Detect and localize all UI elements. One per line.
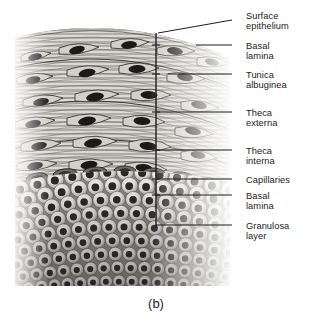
label-theca-externa: Thecaexterna [246, 108, 277, 128]
label-surface-epithelium-line-1: Surface [246, 11, 289, 21]
figure-caption: (b) [0, 296, 312, 311]
label-theca-interna-line-1: Theca [246, 146, 275, 156]
leader-lines [156, 20, 232, 225]
label-capillaries: Capillaries [246, 175, 290, 185]
label-granulosa-layer-line-1: Granulosa [246, 221, 289, 231]
label-tunica-albuginea-line-2: albuginea [246, 80, 287, 90]
label-basal-lamina-inner-line-1: Basal [246, 191, 274, 201]
label-theca-externa-line-1: Theca [246, 108, 277, 118]
label-granulosa-layer-line-2: layer [246, 231, 289, 241]
label-tunica-albuginea-line-1: Tunica [246, 70, 287, 80]
label-theca-interna: Thecainterna [246, 146, 275, 166]
depth-bracket [152, 33, 160, 228]
leader-surface-epithelium [158, 20, 232, 33]
label-granulosa-layer: Granulosalayer [246, 221, 289, 241]
label-basal-lamina-outer-line-1: Basal [246, 41, 274, 51]
label-capillaries-line-1: Capillaries [246, 175, 290, 185]
label-basal-lamina-outer: Basallamina [246, 41, 274, 61]
label-theca-externa-line-2: externa [246, 118, 277, 128]
label-basal-lamina-inner: Basallamina [246, 191, 274, 211]
label-surface-epithelium-line-2: epithelium [246, 21, 289, 31]
histology-figure: SurfaceepitheliumBasallaminaTunicaalbugi… [0, 0, 312, 326]
label-basal-lamina-outer-line-2: lamina [246, 51, 274, 61]
label-tunica-albuginea: Tunicaalbuginea [246, 70, 287, 90]
label-surface-epithelium: Surfaceepithelium [246, 11, 289, 31]
label-basal-lamina-inner-line-2: lamina [246, 201, 274, 211]
label-theca-interna-line-2: interna [246, 156, 275, 166]
